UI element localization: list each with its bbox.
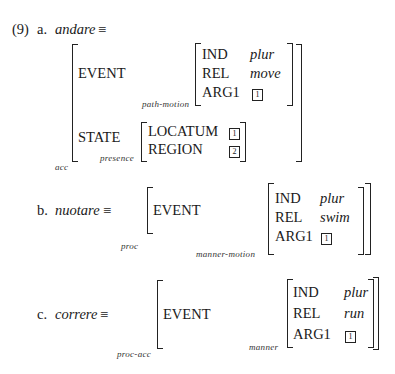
avm-outer-right-bracket	[373, 277, 379, 350]
attr-ind: IND	[202, 47, 228, 62]
type-proc-acc: proc-acc	[117, 350, 151, 359]
avm-state-right-bracket	[240, 122, 246, 162]
attr-rel: REL	[293, 306, 320, 321]
tag-1: 1	[229, 125, 240, 140]
avm-outer-right-bracket	[296, 44, 302, 162]
attr-arg1: ARG1	[293, 327, 331, 342]
item-label-c: c.	[37, 307, 47, 322]
type-manner-motion: manner-motion	[196, 250, 255, 259]
equiv-symbol: ≡	[103, 203, 111, 218]
attr-rel: REL	[275, 210, 302, 225]
attr-event: EVENT	[153, 203, 201, 218]
attr-ind: IND	[275, 191, 301, 206]
attr-ind: IND	[293, 285, 319, 300]
item-label-a: a.	[37, 22, 47, 37]
type-presence: presence	[100, 154, 134, 163]
attr-state: STATE	[78, 130, 120, 145]
item-label-b: b.	[37, 203, 48, 218]
attr-region: REGION	[148, 142, 203, 157]
val-plur: plur	[344, 285, 368, 300]
attr-arg1: ARG1	[202, 85, 240, 100]
type-proc: proc	[121, 242, 138, 251]
avm-event-left-bracket	[195, 43, 201, 106]
equiv-symbol: ≡	[100, 307, 108, 322]
avm-state-left-bracket	[141, 122, 147, 162]
attr-event: EVENT	[163, 307, 211, 322]
avm-event-left-bracket	[268, 183, 274, 255]
avm-event-right-bracket	[287, 43, 293, 106]
verb-nuotare: nuotare	[55, 203, 100, 218]
val-plur: plur	[250, 47, 274, 62]
attr-arg1: ARG1	[275, 229, 313, 244]
type-manner: manner	[249, 343, 278, 352]
type-path-motion: path-motion	[142, 100, 189, 109]
tag-1: 1	[321, 230, 332, 245]
val-move: move	[250, 66, 281, 81]
avm-event-right-bracket	[358, 187, 364, 255]
val-plur: plur	[320, 191, 344, 206]
tag-2: 2	[229, 143, 240, 158]
val-swim: swim	[320, 210, 350, 225]
tag-1: 1	[252, 86, 263, 101]
example-number: (9)	[12, 22, 29, 37]
avm-outer-right-bracket	[365, 183, 371, 255]
tag-1: 1	[345, 328, 356, 343]
attr-locatum: LOCATUM	[148, 124, 218, 139]
type-acc: acc	[55, 163, 68, 172]
attr-event: EVENT	[78, 66, 126, 81]
attr-rel: REL	[202, 66, 229, 81]
verb-correre: correre	[55, 307, 97, 322]
val-run: run	[344, 306, 364, 321]
equiv-symbol: ≡	[98, 22, 106, 37]
verb-andare: andare	[55, 22, 96, 37]
